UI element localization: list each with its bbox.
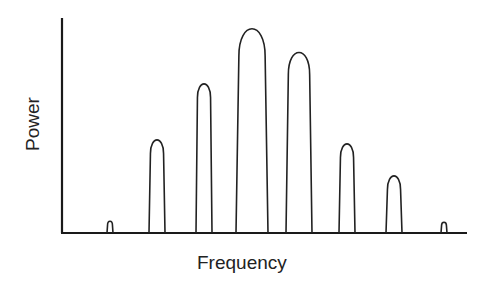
spectral-peak-1 (107, 221, 113, 233)
axes (61, 18, 467, 233)
spectral-peak-4 (236, 29, 268, 233)
spectral-peak-8 (441, 222, 447, 233)
spectral-peak-7 (386, 176, 402, 233)
y-axis-label: Power (22, 97, 44, 151)
spectral-peak-5 (286, 52, 312, 233)
spectral-peak-2 (149, 140, 165, 233)
x-axis-label: Frequency (197, 252, 287, 274)
spectral-peak-6 (339, 144, 355, 233)
peaks-group (107, 29, 447, 233)
spectral-peak-3 (196, 84, 212, 233)
spectrum-chart (0, 0, 484, 294)
